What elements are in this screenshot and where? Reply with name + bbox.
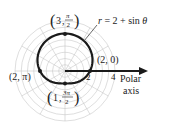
equation-label: r = 2 + sin θ <box>98 15 147 26</box>
svg-text:2: 2 <box>67 21 71 29</box>
svg-text:,: , <box>62 15 65 26</box>
tick-label-2: 2 <box>86 72 91 82</box>
svg-text:2: 2 <box>65 98 69 106</box>
svg-text:(: ( <box>50 12 55 30</box>
point-1-3pi-over-2 <box>63 82 67 86</box>
grid-radial-line <box>22 46 65 71</box>
svg-text:): ) <box>74 89 79 107</box>
tick-label-4: 4 <box>111 72 116 82</box>
polar-axis-label-line2: axis <box>123 85 139 96</box>
svg-text:π: π <box>66 12 70 20</box>
svg-text:): ) <box>74 12 79 30</box>
label-point-2-0: (2, 0) <box>97 54 119 66</box>
svg-text:,: , <box>59 92 62 103</box>
equation-leader-line <box>84 25 97 41</box>
label-point-1-3pi-over-2: ( 1 , 3π 2 ) <box>47 89 79 107</box>
svg-text:(: ( <box>47 89 52 107</box>
point-3-pi-over-2 <box>63 32 67 36</box>
label-point-2-pi: (2, π) <box>9 71 31 83</box>
point-2-pi <box>38 69 42 73</box>
svg-text:1: 1 <box>53 92 58 103</box>
polar-axis-label-line1: Polar <box>120 73 142 84</box>
point-2-0 <box>88 69 92 73</box>
svg-text:3: 3 <box>56 15 61 26</box>
svg-text:3π: 3π <box>62 89 71 97</box>
polar-graph: 2 4 Polar axis r = 2 + sin θ ( 3 , π 2 )… <box>0 0 169 131</box>
